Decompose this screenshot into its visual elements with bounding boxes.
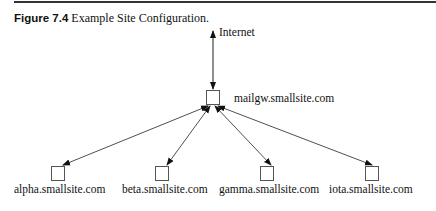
host-label-gamma: gamma.smallsite.com [219, 183, 319, 195]
internet-label: Internet [219, 26, 255, 38]
host-node-beta [156, 167, 169, 181]
host-label-beta: beta.smallsite.com [122, 183, 208, 195]
link-iota [218, 106, 372, 165]
network-diagram [0, 0, 436, 211]
host-node-gamma [261, 167, 274, 181]
link-gamma [215, 106, 271, 165]
gateway-node [207, 91, 220, 105]
gateway-label: mailgw.smallsite.com [234, 92, 334, 104]
link-beta [167, 106, 210, 165]
host-node-alpha [52, 167, 65, 181]
host-label-alpha: alpha.smallsite.com [14, 183, 105, 195]
link-alpha [63, 106, 208, 165]
host-node-iota [366, 167, 379, 181]
host-label-iota: iota.smallsite.com [329, 183, 413, 195]
